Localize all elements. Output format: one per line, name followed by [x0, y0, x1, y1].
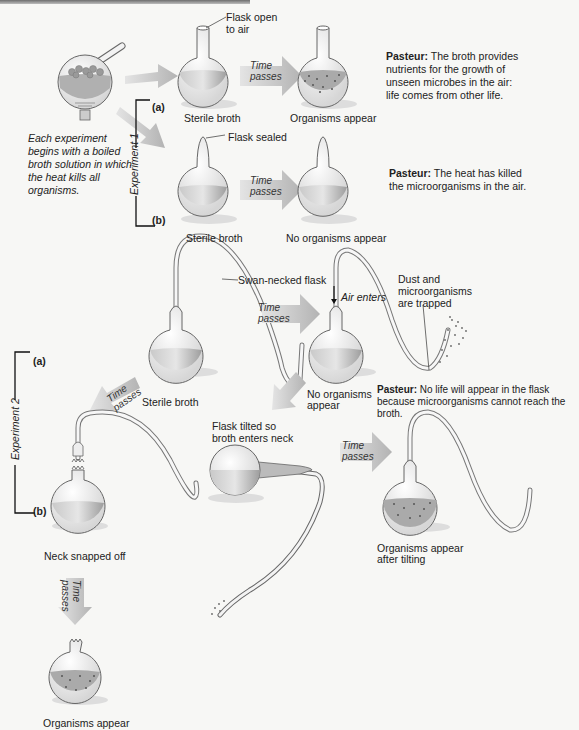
intro-note: Each experiment begins with a boiled bro… [28, 132, 136, 197]
callout-flask-open-line1: Flask open [226, 11, 277, 23]
dust-line1: Dust and [398, 273, 472, 285]
caption-sterile-broth-1b: Sterile broth [186, 232, 243, 244]
experiment2-label: Experiment 2 [9, 398, 21, 460]
flask-open-organisms [298, 26, 357, 109]
passes-word: passes [250, 186, 282, 197]
callout-air-enters: Air enters [341, 291, 386, 303]
time-passes-label-tilt: Time passes [342, 440, 374, 462]
callout-flask-open-line2: to air [226, 23, 277, 35]
arrow-to-exp1a [125, 64, 178, 88]
flask-sealed-no-organisms [298, 137, 357, 224]
dust-line3: are trapped [398, 297, 472, 309]
time-word: Time [342, 440, 374, 451]
exp2-tag-a: (a) [33, 355, 46, 367]
caption-organisms-appear-1a: Organisms appear [290, 112, 376, 124]
exp2-tag-b: (b) [33, 505, 46, 517]
tilt-result-line2: after tilting [377, 554, 463, 565]
time-word: Time [258, 302, 290, 313]
pasteur-note-1b: Pasteur: The heat has killed the microor… [389, 167, 529, 193]
exp1-tag-a: (a) [152, 101, 165, 113]
caption-organisms-after-tilting: Organisms appear after tilting [377, 543, 463, 565]
no-organisms-line2: appear [307, 400, 372, 411]
tilted-line2: broth enters neck [212, 432, 293, 444]
arrow-to-tilted [272, 372, 306, 410]
exp1-tag-b: (b) [152, 214, 165, 226]
pasteur-note-1a: Pasteur: The broth provides nutrients fo… [386, 50, 526, 102]
experiment-illustration [0, 0, 579, 730]
pasteur-label: Pasteur: [377, 384, 417, 395]
pasteur-note-2a: Pasteur: No life will appear in the flas… [377, 384, 579, 420]
dust-callout-line [423, 305, 429, 370]
pasteur-label: Pasteur: [389, 167, 431, 179]
caption-no-organisms-1b: No organisms appear [286, 232, 386, 244]
passes-word: passes [342, 451, 374, 462]
flask-open-sterile [178, 26, 237, 109]
callout-dust-trapped: Dust and microorganisms are trapped [398, 273, 472, 309]
callout-swan-necked-flask: Swan-necked flask [238, 274, 326, 286]
caption-sterile-broth-2a: Sterile broth [142, 396, 199, 408]
caption-organisms-appear-2b: Organisms appear [43, 717, 129, 729]
time-word: Time [250, 60, 282, 71]
caption-flask-tilted: Flask tilted so broth enters neck [212, 420, 293, 444]
time-passes-label-down: Time passes [60, 580, 82, 612]
swan-neck-flask-no-organisms [309, 250, 448, 383]
pasteur-label: Pasteur: [386, 50, 428, 62]
snapped-flask-organisms [49, 639, 108, 705]
caption-no-organisms-2a: No organisms appear [307, 389, 372, 411]
time-passes-label-1b: Time passes [250, 175, 282, 197]
flask-sealed-sterile [178, 137, 237, 224]
boiling-flask-icon [58, 46, 122, 120]
swan-neck-flask-organisms [383, 412, 530, 535]
passes-word: passes [258, 313, 290, 324]
tilted-line1: Flask tilted so [212, 420, 293, 432]
tilted-flask [208, 445, 322, 615]
caption-sterile-broth-1a: Sterile broth [184, 112, 241, 124]
passes-word: passes [250, 71, 282, 82]
time-passes-label-2a: Time passes [258, 302, 290, 324]
callout-flask-open: Flask open to air [226, 11, 277, 35]
time-word: Time [250, 175, 282, 186]
snapped-neck-flask [51, 412, 197, 533]
caption-neck-snapped-off: Neck snapped off [44, 550, 126, 562]
callout-flask-sealed: Flask sealed [228, 131, 287, 143]
dust-line2: microorganisms [398, 285, 472, 297]
time-passes-label-1a: Time passes [250, 60, 282, 82]
passes-word: passes [60, 580, 71, 612]
time-word: Time [71, 580, 82, 612]
